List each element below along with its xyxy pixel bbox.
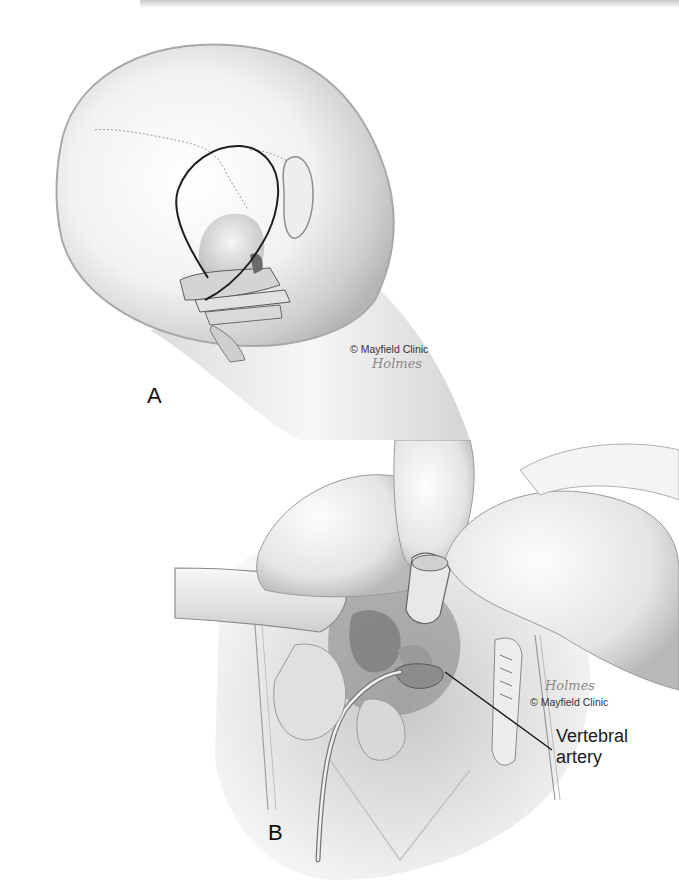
panel-b: Holmes © Mayfield Clinic Vertebral arter… — [0, 440, 679, 890]
callout-line-1: Vertebral — [556, 726, 628, 747]
artist-signature: Holmes — [545, 678, 595, 693]
copyright-credit: © Mayfield Clinic — [350, 343, 428, 355]
panel-label-a: A — [147, 383, 162, 409]
panel-a: © Mayfield Clinic Holmes A — [0, 0, 679, 440]
head-illustration — [0, 0, 679, 440]
panel-label-b: B — [268, 820, 283, 846]
artist-signature: Holmes — [372, 356, 422, 371]
copyright-credit: © Mayfield Clinic — [530, 696, 608, 708]
callout-line-2: artery — [556, 747, 628, 768]
callout-vertebral-artery: Vertebral artery — [556, 726, 628, 768]
surgical-exposure-illustration — [0, 440, 679, 890]
